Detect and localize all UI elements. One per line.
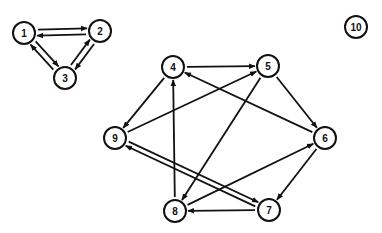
edge-9-to-7 — [129, 142, 259, 203]
node-label: 9 — [112, 133, 118, 144]
node-7: 7 — [258, 199, 280, 221]
edge-6-to-7 — [277, 149, 316, 200]
edge-8-to-4 — [173, 80, 175, 197]
node-10: 10 — [345, 16, 367, 38]
node-label: 6 — [322, 133, 328, 144]
node-label: 1 — [21, 28, 27, 39]
node-1: 1 — [13, 22, 35, 44]
node-9: 9 — [104, 127, 126, 149]
edge-1-to-2 — [38, 28, 87, 29]
edge-5-to-8 — [182, 78, 260, 200]
directed-graph: 12345678910 — [0, 0, 382, 233]
node-3: 3 — [54, 67, 76, 89]
node-label: 3 — [62, 73, 68, 84]
node-label: 7 — [266, 205, 272, 216]
node-8: 8 — [164, 200, 186, 222]
node-6: 6 — [314, 127, 336, 149]
edge-2-to-1 — [37, 34, 86, 35]
edge-8-to-6 — [188, 144, 314, 205]
node-4: 4 — [162, 56, 184, 78]
nodes-layer: 12345678910 — [13, 16, 367, 222]
edge-6-to-4 — [185, 73, 313, 133]
node-label: 8 — [172, 206, 178, 217]
node-label: 10 — [350, 22, 362, 33]
edge-4-to-5 — [187, 66, 255, 67]
edge-7-to-8 — [188, 210, 255, 211]
node-label: 5 — [265, 61, 271, 72]
edge-5-to-6 — [277, 77, 317, 128]
node-label: 4 — [170, 62, 176, 73]
edge-9-to-5 — [128, 72, 257, 133]
edge-4-to-9 — [123, 78, 164, 128]
node-5: 5 — [257, 55, 279, 77]
node-label: 2 — [97, 26, 103, 37]
node-2: 2 — [89, 20, 111, 42]
edge-7-to-9 — [126, 146, 256, 207]
